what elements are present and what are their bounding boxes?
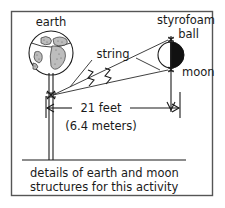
distance-meters-label: (6.4 meters)	[65, 119, 137, 133]
earth-moon-diagram: earth styrofoam ball moon string 21 feet…	[0, 0, 225, 208]
string-label: string	[96, 47, 129, 61]
caption-line-1: details of earth and moon	[30, 166, 179, 180]
earth-label: earth	[36, 15, 67, 29]
continent-north	[41, 37, 52, 45]
caption-line-2: structures for this activity	[30, 180, 179, 194]
distance-feet-label: 21 feet	[81, 101, 122, 115]
figure-container: earth styrofoam ball moon string 21 feet…	[0, 0, 225, 208]
styrofoam-label: styrofoam	[157, 13, 215, 27]
ball-label: ball	[178, 27, 199, 41]
moon-label: moon	[182, 65, 215, 79]
continent-northeast	[53, 37, 67, 46]
